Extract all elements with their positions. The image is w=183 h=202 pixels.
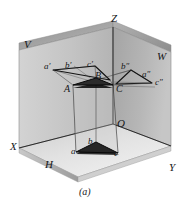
plane-label-h: H (45, 159, 53, 170)
proj-label-b-double-prime: b″ (121, 62, 129, 71)
axis-label-z: Z (111, 13, 117, 24)
axis-label-y: Y (169, 162, 175, 173)
projection-diagram-svg (0, 0, 183, 202)
vertex-label-C: C (116, 84, 123, 94)
vertex-label-B: B (95, 71, 101, 81)
proj-label-a-prime: a′ (44, 62, 50, 71)
proj-label-b-prime: b′ (65, 61, 71, 70)
proj-label-c-prime: c′ (87, 60, 93, 69)
plane-label-w: W (157, 51, 166, 62)
figure-caption: (a) (79, 186, 91, 197)
proj-label-b: b (88, 137, 93, 146)
vertex-label-A: A (64, 84, 70, 94)
proj-label-c: c (114, 149, 118, 158)
figure-container: Z X Y O V W H A B C a′ b′ c′ b″ a″ c″ a … (0, 0, 183, 202)
proj-label-a: a (71, 147, 76, 156)
proj-label-c-double-prime: c″ (155, 78, 163, 87)
plane-label-v: V (24, 39, 31, 50)
proj-label-a-double-prime: a″ (142, 70, 150, 79)
axis-label-x: X (10, 141, 17, 152)
axis-label-o: O (117, 118, 125, 129)
